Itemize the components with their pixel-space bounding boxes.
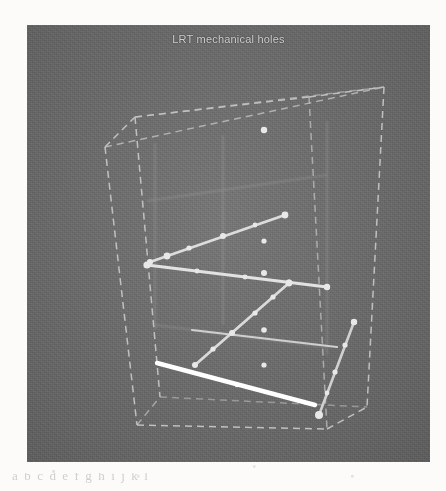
rod-horizontal-cross	[147, 265, 327, 287]
bounding-box-wireframe	[105, 87, 384, 429]
figure-panel: LRT mechanical holes	[27, 25, 430, 462]
inner-plane-lines	[147, 121, 327, 355]
page-caption-fragment: a b c d e f g h i j k l	[12, 473, 440, 491]
scanned-page: LRT mechanical holes a b c d e f g h i j…	[0, 0, 446, 491]
rod-right-diagonal	[319, 322, 354, 415]
3d-wireframe-scene	[27, 25, 430, 462]
figure-title: LRT mechanical holes	[27, 33, 430, 45]
rod-group	[147, 130, 354, 415]
joint-nodes	[143, 127, 357, 419]
caption-text: a b c d e f g h i j k l	[12, 473, 150, 484]
